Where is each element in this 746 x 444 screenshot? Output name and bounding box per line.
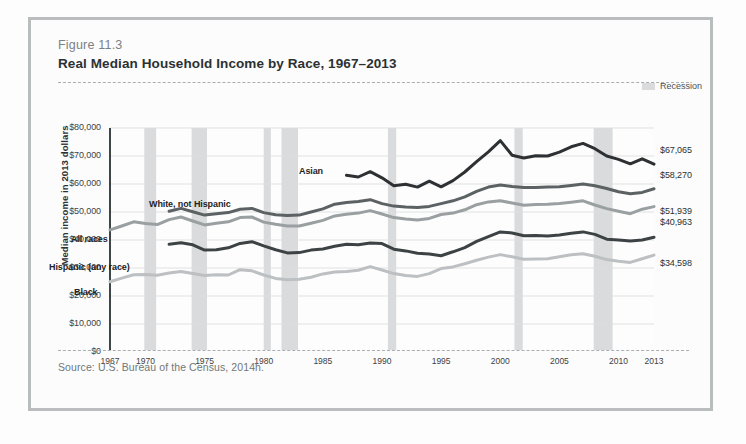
series-end-value: $58,270 (660, 170, 692, 180)
x-tick-label: 2005 (539, 356, 579, 366)
y-tick-label: $50,000 (43, 206, 101, 216)
line-chart-svg (31, 82, 716, 350)
recession-band (144, 128, 156, 350)
series-name-label: White, not Hispanic (149, 199, 231, 209)
recession-band (264, 128, 271, 350)
y-tick-label: $0 (43, 346, 101, 356)
x-tick-label: 2000 (480, 356, 520, 366)
recession-band (192, 128, 207, 350)
recession-band (388, 128, 396, 350)
recession-band (281, 128, 298, 350)
page-root: Figure 11.3 Real Median Household Income… (0, 0, 746, 444)
y-tick-label: $70,000 (43, 150, 101, 160)
x-tick-label: 1985 (303, 356, 343, 366)
series-name-label: Asian (299, 166, 323, 176)
figure-title: Real Median Household Income by Race, 19… (58, 56, 397, 71)
series-name-label: Black (74, 287, 98, 297)
x-tick-label: 2013 (634, 356, 674, 366)
series-name-label: Hispanic (any race) (49, 262, 130, 272)
x-tick-label: 2010 (599, 356, 639, 366)
x-tick-label: 1995 (421, 356, 461, 366)
divider-bottom (58, 350, 689, 351)
y-tick-label: $10,000 (43, 318, 101, 328)
series-end-value: $67,065 (660, 145, 692, 155)
series-name-label: All races (71, 234, 108, 244)
series-end-value: $40,963 (660, 217, 692, 227)
source-note: Source: U.S. Bureau of the Census, 2014h… (58, 361, 264, 373)
series-end-value: $51,939 (660, 206, 692, 216)
y-tick-label: $80,000 (43, 122, 101, 132)
y-tick-label: $60,000 (43, 178, 101, 188)
recession-band (514, 128, 522, 350)
series-end-value: $34,598 (660, 258, 692, 268)
figure-card: Figure 11.3 Real Median Household Income… (28, 17, 713, 411)
chart-area: Median income in 2013 dollars Recession … (31, 82, 716, 350)
figure-number: Figure 11.3 (58, 38, 123, 52)
x-tick-label: 1990 (362, 356, 402, 366)
